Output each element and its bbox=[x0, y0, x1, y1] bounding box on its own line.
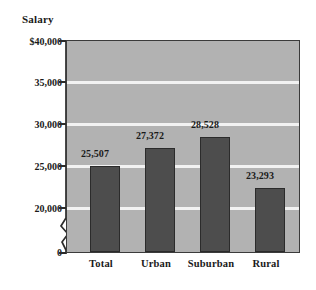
bar-urban[interactable] bbox=[145, 148, 175, 252]
x-category-label-total: Total bbox=[75, 258, 127, 269]
value-label-suburban: 28,528 bbox=[179, 119, 231, 130]
plot-area bbox=[66, 40, 300, 253]
bar-chart: Salary $40,000 35,000 30,000 25,000 20,0… bbox=[0, 0, 316, 290]
x-category-label-rural: Rural bbox=[240, 258, 292, 269]
bar-total[interactable] bbox=[90, 166, 120, 252]
x-category-label-suburban: Suburban bbox=[180, 258, 242, 269]
bar-rural[interactable] bbox=[255, 188, 285, 252]
gridline-35000 bbox=[67, 81, 299, 84]
value-label-rural: 23,293 bbox=[234, 170, 286, 181]
bar-suburban[interactable] bbox=[200, 137, 230, 252]
value-label-total: 25,507 bbox=[69, 148, 121, 159]
y-axis-tick-group: $40,000 35,000 30,000 25,000 20,000 0 bbox=[0, 0, 62, 290]
value-label-urban: 27,372 bbox=[124, 130, 176, 141]
x-category-label-urban: Urban bbox=[130, 258, 182, 269]
